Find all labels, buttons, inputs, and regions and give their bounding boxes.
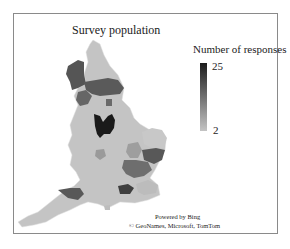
legend-max-label: 25 — [212, 60, 223, 72]
powered-by-bing-label: Powered by Bing — [155, 213, 200, 220]
copyright-attribution: © GeoNames, Microsoft, TomTom — [129, 222, 220, 229]
legend-title: Number of responses — [193, 43, 286, 55]
west-yorkshire-patch — [106, 99, 112, 106]
cumbria-region — [66, 60, 86, 90]
legend-min-label: 2 — [213, 124, 219, 136]
legend-color-scale — [200, 63, 207, 131]
map-title: Survey population — [72, 23, 160, 38]
